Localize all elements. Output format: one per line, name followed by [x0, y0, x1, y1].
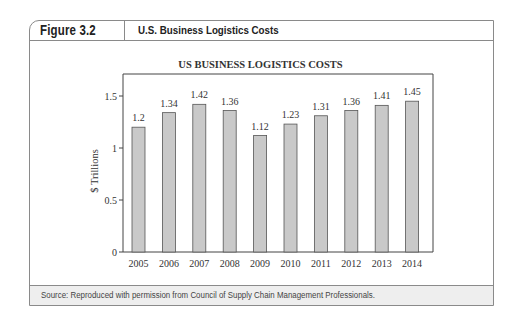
- y-axis-label: $ Trillions: [89, 149, 100, 192]
- bar: [314, 116, 327, 252]
- x-tick-label: 2007: [189, 258, 209, 269]
- x-tick-label: 2013: [372, 258, 392, 269]
- data-label: 1.42: [191, 89, 209, 100]
- bar: [132, 127, 145, 252]
- bar-chart: 00.511.5$ Trillions1.220051.3420061.4220…: [0, 0, 521, 323]
- data-label: 1.41: [373, 90, 391, 101]
- x-tick-label: 2011: [311, 258, 331, 269]
- bar: [254, 136, 267, 252]
- data-label: 1.31: [312, 101, 330, 112]
- x-tick-label: 2014: [402, 258, 422, 269]
- bar: [375, 105, 388, 252]
- x-tick-label: 2010: [281, 258, 301, 269]
- y-tick-label: 0: [112, 247, 117, 258]
- bar: [284, 124, 297, 252]
- x-tick-label: 2012: [341, 258, 361, 269]
- x-tick-label: 2009: [250, 258, 270, 269]
- data-label: 1.36: [221, 96, 239, 107]
- x-tick-label: 2008: [220, 258, 240, 269]
- data-label: 1.12: [251, 121, 269, 132]
- data-label: 1.36: [343, 96, 361, 107]
- y-tick-label: 0.5: [105, 195, 118, 206]
- bar: [345, 111, 358, 252]
- x-tick-label: 2005: [129, 258, 149, 269]
- bar: [193, 104, 206, 252]
- data-label: 1.2: [132, 112, 145, 123]
- bar: [223, 111, 236, 252]
- y-tick-label: 1: [112, 143, 117, 154]
- data-label: 1.45: [403, 86, 421, 97]
- data-label: 1.23: [282, 109, 300, 120]
- data-label: 1.34: [160, 98, 178, 109]
- bar: [162, 113, 175, 252]
- x-tick-label: 2006: [159, 258, 179, 269]
- y-tick-label: 1.5: [105, 91, 118, 102]
- bar: [406, 101, 419, 252]
